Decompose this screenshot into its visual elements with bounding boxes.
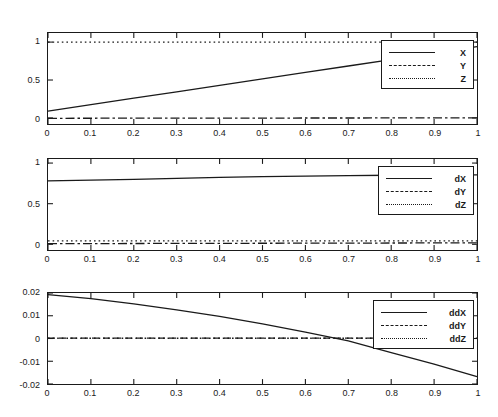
x-tick-label: 0.5 — [256, 389, 269, 398]
x-tick-label: 0.7 — [342, 389, 355, 398]
legend-entry[interactable]: ddZ — [374, 332, 473, 346]
x-tick-label: 0.7 — [342, 255, 355, 264]
legend-label: dZ — [455, 198, 466, 212]
legend-entry[interactable]: X — [382, 46, 473, 60]
legend-line-sample — [381, 325, 427, 326]
x-tick-label: 0.6 — [299, 255, 312, 264]
legend-line-sample — [381, 338, 427, 339]
x-tick-label: 1 — [475, 129, 480, 138]
legend-line-sample — [381, 312, 427, 315]
legend-entry[interactable]: Y — [382, 59, 473, 73]
legend-line-sample — [386, 204, 432, 205]
x-tick-label: 0.3 — [170, 255, 183, 264]
x-tick-label: 0.3 — [170, 389, 183, 398]
legend-entry[interactable]: Z — [382, 72, 473, 86]
y-tick-label: 0.02 — [0, 288, 40, 297]
legend-3[interactable]: ddXddYddZ — [373, 300, 474, 349]
x-tick-label: 0 — [44, 129, 49, 138]
y-tick-label: 0.01 — [0, 311, 40, 320]
legend-label: dX — [454, 172, 466, 186]
y-tick-label: 0 — [0, 334, 40, 343]
x-tick-label: 0.6 — [299, 129, 312, 138]
legend-label: dY — [454, 185, 466, 199]
x-tick-label: 0.3 — [170, 129, 183, 138]
legend-line-sample — [389, 52, 435, 55]
x-tick-label: 0.5 — [256, 129, 269, 138]
subplot-panel-3: -0.02-0.0100.010.02 00.10.20.30.40.50.60… — [0, 285, 498, 417]
y-tick-label: 1 — [0, 37, 40, 46]
y-tick-label: 0 — [0, 114, 40, 123]
x-tick-label: 0.2 — [127, 129, 140, 138]
x-tick-label: 0.2 — [127, 389, 140, 398]
legend-line-sample — [389, 65, 435, 66]
x-tick-label: 0.8 — [386, 389, 399, 398]
legend-entry[interactable]: ddX — [374, 306, 473, 320]
x-tick-label: 0 — [44, 255, 49, 264]
legend-2[interactable]: dXdYdZ — [378, 166, 474, 215]
legend-1[interactable]: XYZ — [381, 40, 474, 89]
subplot-panel-2: 00.51 00.10.20.30.40.50.60.70.80.91 dXdY… — [0, 145, 498, 285]
legend-label: X — [460, 46, 466, 60]
x-tick-label: 0.4 — [213, 129, 226, 138]
legend-label: ddY — [449, 319, 466, 333]
x-tick-label: 0.5 — [256, 255, 269, 264]
x-tick-label: 0.1 — [84, 255, 97, 264]
legend-entry[interactable]: dZ — [379, 198, 473, 212]
x-tick-label: 0.1 — [84, 129, 97, 138]
legend-label: ddZ — [450, 332, 467, 346]
legend-entry[interactable]: dY — [379, 185, 473, 199]
x-tick-label: 0.8 — [386, 129, 399, 138]
legend-line-sample — [386, 191, 432, 192]
subplot-panel-1: 00.51 00.10.20.30.40.50.60.70.80.91 XYZ — [0, 0, 498, 145]
x-tick-label: 0.4 — [213, 389, 226, 398]
x-tick-label: 1 — [475, 255, 480, 264]
y-tick-label: -0.02 — [0, 381, 40, 390]
x-tick-label: 0.1 — [84, 389, 97, 398]
x-tick-label: 0.9 — [429, 389, 442, 398]
legend-label: ddX — [449, 306, 466, 320]
y-tick-label: 0.5 — [0, 76, 40, 85]
legend-entry[interactable]: dX — [379, 172, 473, 186]
legend-line-sample — [386, 178, 432, 181]
x-tick-label: 0.2 — [127, 255, 140, 264]
x-tick-label: 1 — [475, 389, 480, 398]
y-tick-label: 1 — [0, 158, 40, 167]
x-tick-label: 0 — [44, 389, 49, 398]
x-tick-label: 0.8 — [386, 255, 399, 264]
x-tick-label: 0.9 — [429, 129, 442, 138]
figure-canvas: 00.51 00.10.20.30.40.50.60.70.80.91 XYZ … — [0, 0, 498, 417]
legend-line-sample — [389, 78, 435, 79]
y-tick-label: -0.01 — [0, 357, 40, 366]
y-tick-label: 0 — [0, 241, 40, 250]
y-tick-label: 0.5 — [0, 199, 40, 208]
legend-label: Y — [460, 59, 466, 73]
x-tick-label: 0.7 — [342, 129, 355, 138]
legend-label: Z — [461, 72, 467, 86]
x-tick-label: 0.9 — [429, 255, 442, 264]
x-tick-label: 0.4 — [213, 255, 226, 264]
x-tick-label: 0.6 — [299, 389, 312, 398]
legend-entry[interactable]: ddY — [374, 319, 473, 333]
